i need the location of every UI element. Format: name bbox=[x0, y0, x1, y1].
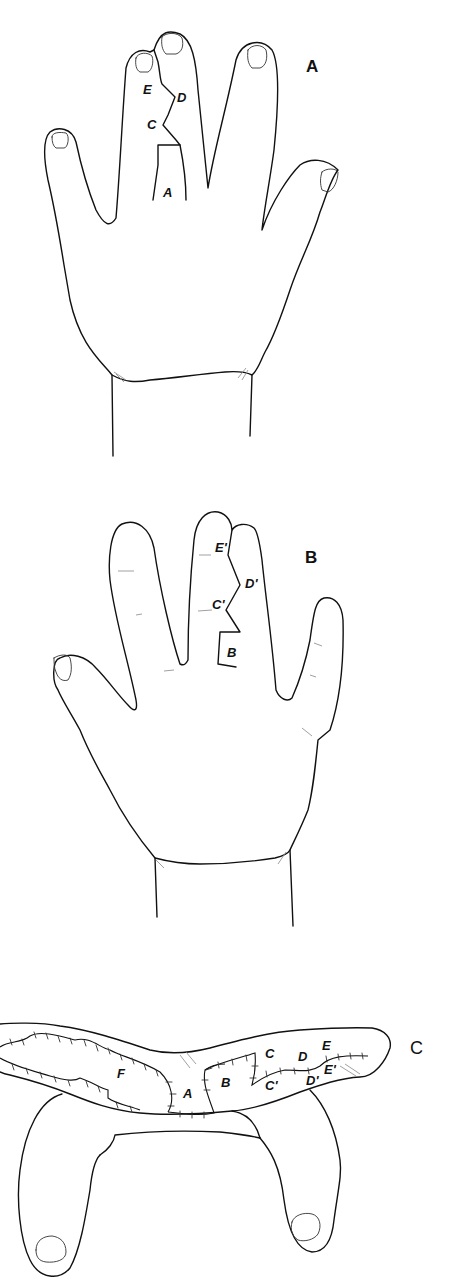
flap-label-d-prime: D' bbox=[306, 1073, 319, 1088]
flap-label-e-prime: E' bbox=[215, 540, 228, 555]
flap-label-e: E bbox=[322, 1038, 331, 1053]
panel-c-finger-drawing: F A B C C' D D' E E' bbox=[0, 1023, 390, 1276]
flap-label-a: A bbox=[162, 185, 172, 200]
flap-label-f: F bbox=[117, 1066, 126, 1081]
panel-label-b: B bbox=[305, 548, 317, 567]
panel-b-hand-drawing: E' D' C' B bbox=[54, 512, 343, 926]
panel-label-a: A bbox=[306, 57, 318, 76]
flap-label-c: C bbox=[147, 117, 157, 132]
flap-label-e: E bbox=[143, 82, 152, 97]
flap-label-e-prime: E' bbox=[324, 1062, 337, 1077]
flap-label-b: B bbox=[221, 1075, 230, 1090]
panel-label-c: C bbox=[410, 1038, 423, 1058]
flap-label-d-prime: D' bbox=[245, 576, 258, 591]
flap-label-c-prime: C' bbox=[212, 597, 225, 612]
flap-label-b: B bbox=[227, 645, 236, 660]
panel-a-hand-drawing: E D C A bbox=[45, 32, 339, 456]
surgical-hand-illustration: E D C A A E' D' C' B B bbox=[0, 0, 457, 1287]
flap-label-d: D bbox=[177, 90, 187, 105]
flap-label-c: C bbox=[265, 1046, 275, 1061]
flap-label-a: A bbox=[182, 1086, 192, 1101]
flap-label-d: D bbox=[298, 1049, 308, 1064]
flap-label-c-prime: C' bbox=[265, 1078, 278, 1093]
